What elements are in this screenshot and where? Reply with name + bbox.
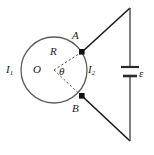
wire-node-b-to-bottom-corner <box>82 96 130 141</box>
label-angle-theta: θ <box>59 66 64 77</box>
label-emf-epsilon: ε <box>139 68 143 79</box>
node-b-marker <box>79 93 85 99</box>
label-point-a: A <box>72 30 79 41</box>
diagram-canvas <box>0 0 154 155</box>
label-current-i1: I1 <box>6 64 13 75</box>
wire-node-a-to-top-corner <box>82 8 130 52</box>
label-point-b: B <box>72 103 79 114</box>
label-current-i2: I2 <box>88 64 95 75</box>
label-current-i2-subscript: 2 <box>92 69 95 76</box>
label-radius-r: R <box>50 46 57 57</box>
label-center-o: O <box>33 64 41 75</box>
label-current-i1-subscript: 1 <box>10 69 13 76</box>
circuit-diagram-figure: A B O R θ I1 I2 ε <box>0 0 154 155</box>
node-a-marker <box>79 49 85 55</box>
